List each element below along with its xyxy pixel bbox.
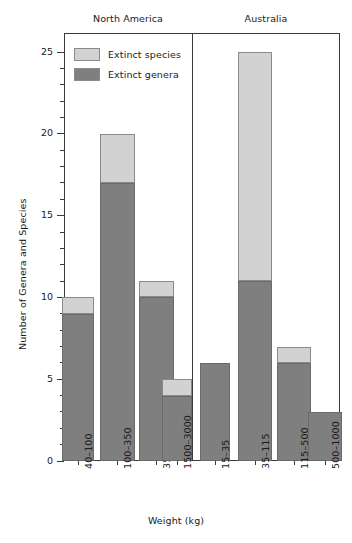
x-axis-tick-label: 500–1000 [330, 421, 341, 469]
x-axis-tick [255, 461, 256, 465]
bar-segment-species [277, 347, 311, 363]
x-axis-tick-label: 100–350 [122, 427, 133, 469]
chart-figure: North America Australia Number of Genera… [0, 0, 352, 543]
legend-swatch-species-icon [74, 48, 100, 61]
y-axis-tick-label: 0 [23, 456, 53, 466]
x-axis-tick [177, 461, 178, 465]
y-axis-tick-minor [60, 281, 64, 282]
y-axis-tick-label: 10 [23, 292, 53, 302]
y-axis-tick-major [57, 52, 64, 53]
panel-divider [192, 33, 193, 461]
y-axis-tick-minor [60, 68, 64, 69]
y-axis-tick-minor [60, 150, 64, 151]
x-axis-tick [117, 461, 118, 465]
bar-segment-species [238, 52, 272, 281]
bar-segment-species [100, 134, 135, 183]
x-axis-tick-label: 35–115 [260, 433, 271, 469]
x-axis-tick [156, 461, 157, 465]
y-axis-tick-label: 20 [23, 128, 53, 138]
y-axis-title: Number of Genera and Species [17, 199, 28, 350]
bar-segment-species [139, 281, 174, 297]
x-axis-tick [294, 461, 295, 465]
x-axis-title: Weight (kg) [0, 515, 352, 526]
legend-label-species: Extinct species [108, 49, 181, 60]
bar-segment-genera [100, 183, 135, 461]
x-axis-tick [325, 461, 326, 465]
bar-north-america-100-350 [100, 134, 135, 461]
legend-swatch-genera-icon [74, 68, 100, 81]
y-axis-tick-minor [60, 199, 64, 200]
x-axis-tick-label: 1500–3000 [182, 415, 193, 469]
y-axis-tick-minor [60, 101, 64, 102]
chart-legend: Extinct species Extinct genera [74, 45, 194, 85]
y-axis-tick-minor [60, 166, 64, 167]
y-axis-tick-label: 25 [23, 47, 53, 57]
panel-header-north-america: North America [64, 13, 192, 24]
legend-item-genera: Extinct genera [74, 65, 194, 83]
x-axis-tick [215, 461, 216, 465]
y-axis-tick-minor [60, 248, 64, 249]
x-axis-tick-label: 15–35 [220, 440, 231, 469]
y-axis-tick-minor [60, 84, 64, 85]
panel-header-australia: Australia [192, 13, 340, 24]
y-axis-tick-major [57, 215, 64, 216]
bar-australia-35-115 [238, 52, 272, 461]
x-axis-tick [78, 461, 79, 465]
bar-segment-species [62, 297, 94, 313]
bar-segment-species [162, 379, 192, 395]
y-axis-tick-label: 5 [23, 374, 53, 384]
y-axis-tick-minor [60, 232, 64, 233]
x-axis-tick-label: 40–100 [83, 433, 94, 469]
y-axis-tick-label: 15 [23, 210, 53, 220]
legend-label-genera: Extinct genera [108, 69, 179, 80]
y-axis-tick-major [57, 133, 64, 134]
y-axis-tick-minor [60, 264, 64, 265]
legend-item-species: Extinct species [74, 45, 194, 63]
y-axis-tick-minor [60, 182, 64, 183]
y-axis-tick-minor [60, 117, 64, 118]
